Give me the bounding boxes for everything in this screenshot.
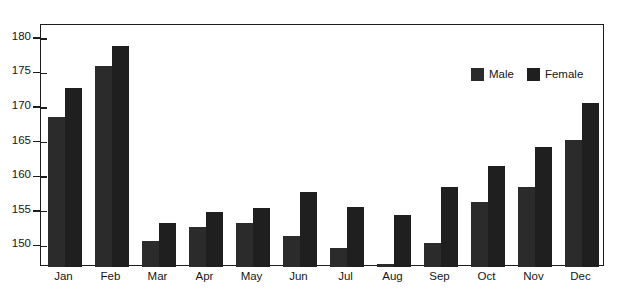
bar-aug-female (394, 215, 411, 267)
bar-dec-male (565, 140, 582, 267)
y-axis-tick-inner (41, 142, 47, 143)
y-axis-tick-label: 160 (12, 168, 31, 180)
y-axis-tick-label: 180 (12, 30, 31, 42)
y-axis-tick-label: 155 (12, 203, 31, 215)
y-axis-tick-mark (33, 141, 40, 142)
bar-nov-female (535, 147, 552, 267)
y-axis-tick-label: 175 (12, 64, 31, 76)
bar-jul-male (330, 248, 347, 267)
x-axis-label-may: May (241, 270, 263, 282)
x-axis-label-sep: Sep (429, 270, 449, 282)
bar-jun-male (283, 236, 300, 267)
bar-sep-female (441, 187, 458, 267)
y-axis-tick-mark (33, 245, 40, 246)
y-axis-tick-inner (41, 211, 47, 212)
bar-oct-female (488, 166, 505, 267)
legend-item-male: Male (471, 68, 514, 81)
x-axis-label-jul: Jul (338, 270, 353, 282)
bar-oct-male (471, 202, 488, 267)
legend-swatch-male (471, 68, 484, 81)
y-axis-tick-inner (41, 107, 47, 108)
x-axis-label-nov: Nov (523, 270, 543, 282)
y-axis-tick-inner (41, 176, 47, 177)
x-axis-labels: JanFebMarAprMayJunJulAugSepOctNovDec (40, 268, 604, 288)
bar-may-male (236, 223, 253, 267)
y-axis-tick-mark (33, 176, 40, 177)
legend-swatch-female (527, 68, 540, 81)
bar-jan-female (65, 88, 82, 267)
bar-apr-male (189, 227, 206, 267)
x-axis-label-dec: Dec (570, 270, 590, 282)
y-axis-tick-label: 165 (12, 134, 31, 146)
y-axis-tick-label: 150 (12, 237, 31, 249)
x-axis-label-mar: Mar (148, 270, 168, 282)
x-axis-label-jan: Jan (54, 270, 73, 282)
plot-area: Male Female (40, 24, 604, 266)
y-axis-tick-inner (41, 73, 47, 74)
legend-label-male: Male (489, 68, 514, 81)
bar-may-female (253, 208, 270, 267)
y-axis-tick-inner (41, 38, 47, 39)
bar-nov-male (518, 187, 535, 267)
bar-feb-female (112, 46, 129, 267)
y-axis: 150155160165170175180 (0, 0, 40, 302)
bar-jun-female (300, 192, 317, 267)
legend-label-female: Female (545, 68, 583, 81)
chart-legend: Male Female (471, 68, 583, 81)
x-axis-label-apr: Apr (196, 270, 214, 282)
bar-mar-male (142, 241, 159, 267)
bar-feb-male (95, 66, 112, 267)
y-axis-tick-mark (33, 37, 40, 38)
x-axis-label-feb: Feb (101, 270, 121, 282)
bar-aug-male (377, 264, 394, 267)
x-axis-label-oct: Oct (478, 270, 496, 282)
y-axis-tick-label: 170 (12, 99, 31, 111)
legend-item-female: Female (527, 68, 583, 81)
y-axis-tick-mark (33, 106, 40, 107)
x-axis-label-jun: Jun (289, 270, 308, 282)
figure-container: 150155160165170175180 Male Female JanFeb… (0, 0, 627, 302)
y-axis-tick-mark (33, 210, 40, 211)
y-axis-tick-inner (41, 246, 47, 247)
y-axis-tick-mark (33, 72, 40, 73)
bar-sep-male (424, 243, 441, 267)
bar-apr-female (206, 212, 223, 267)
bar-jul-female (347, 207, 364, 267)
bar-mar-female (159, 223, 176, 267)
bar-jan-male (48, 117, 65, 267)
x-axis-label-aug: Aug (382, 270, 402, 282)
bar-dec-female (582, 103, 599, 267)
